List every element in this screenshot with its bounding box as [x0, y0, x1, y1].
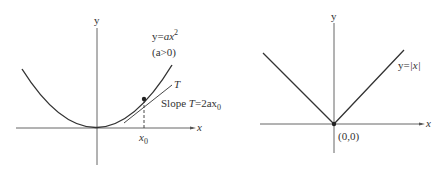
tangent-label: T	[174, 78, 181, 90]
x0-label: x0	[138, 131, 148, 146]
right-y-axis-label: y	[331, 10, 337, 22]
origin-point	[332, 122, 336, 126]
right-x-axis-arrow-icon	[419, 123, 425, 126]
right-abs-diagram: y x y=|x| (0,0)	[260, 10, 431, 153]
left-y-axis-label: y	[94, 14, 100, 26]
diagram-canvas: y x y=ax2 (a>0) T Slope T=2ax0 x0 y x	[0, 0, 441, 176]
slope-label: Slope T=2ax0	[161, 97, 221, 112]
left-x-axis-label: x	[196, 121, 202, 133]
condition-label: (a>0)	[152, 46, 176, 59]
abs-value-curve	[263, 50, 404, 124]
left-x-axis-arrow-icon	[190, 127, 196, 130]
right-x-axis-label: x	[425, 117, 431, 129]
left-parabola-diagram: y x y=ax2 (a>0) T Slope T=2ax0 x0	[16, 14, 221, 165]
parabola-equation-label: y=ax2	[152, 28, 178, 42]
origin-label: (0,0)	[338, 130, 359, 143]
abs-equation-label: y=|x|	[398, 59, 421, 71]
